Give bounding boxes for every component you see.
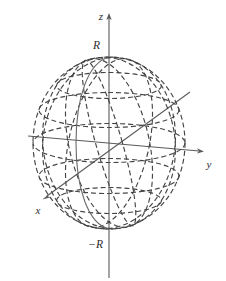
sphere-figure: z y x R −R xyxy=(0,0,226,281)
z-axis-label: z xyxy=(98,10,104,22)
sphere-diagram-canvas: z y x R −R xyxy=(0,0,226,281)
z-axis xyxy=(106,13,111,278)
y-axis-label: y xyxy=(206,158,212,170)
tick-label-positive-r: R xyxy=(92,39,100,51)
x-axis-arrowhead xyxy=(43,193,50,199)
x-axis-label: x xyxy=(35,204,41,216)
tick-label-negative-r: −R xyxy=(88,238,103,250)
axes-group xyxy=(28,13,204,278)
y-axis-line xyxy=(28,136,199,151)
